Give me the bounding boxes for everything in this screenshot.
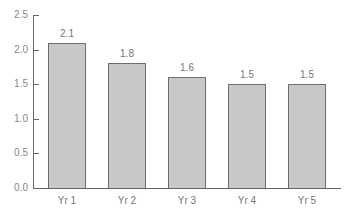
y-tick: [34, 119, 39, 120]
x-axis: [33, 188, 341, 189]
bar-chart: 0.00.51.01.52.02.5 2.1Yr 11.8Yr 21.6Yr 3…: [0, 0, 350, 218]
y-axis: [33, 15, 34, 189]
x-tick-label: Yr 4: [227, 196, 267, 206]
x-tick-label: Yr 3: [167, 196, 207, 206]
x-tick-label: Yr 2: [107, 196, 147, 206]
y-tick: [34, 153, 39, 154]
y-tick: [34, 15, 39, 16]
y-tick: [34, 50, 39, 51]
bar-yr-2: [108, 63, 146, 188]
bar-yr-4: [228, 84, 266, 188]
y-tick-label: 1.5: [2, 79, 28, 89]
y-tick: [34, 188, 39, 189]
bar-yr-1: [48, 43, 86, 188]
x-tick-label: Yr 5: [287, 196, 327, 206]
y-tick-label: 2.0: [2, 45, 28, 55]
y-tick-label: 1.0: [2, 114, 28, 124]
y-tick: [34, 84, 39, 85]
value-label: 1.8: [107, 49, 147, 59]
y-tick-label: 2.5: [2, 10, 28, 20]
value-label: 1.6: [167, 63, 207, 73]
value-label: 1.5: [287, 70, 327, 80]
value-label: 2.1: [47, 29, 87, 39]
value-label: 1.5: [227, 70, 267, 80]
y-tick-label: 0.0: [2, 183, 28, 193]
bar-yr-3: [168, 77, 206, 188]
bar-yr-5: [288, 84, 326, 188]
x-tick-label: Yr 1: [47, 196, 87, 206]
y-tick-label: 0.5: [2, 148, 28, 158]
